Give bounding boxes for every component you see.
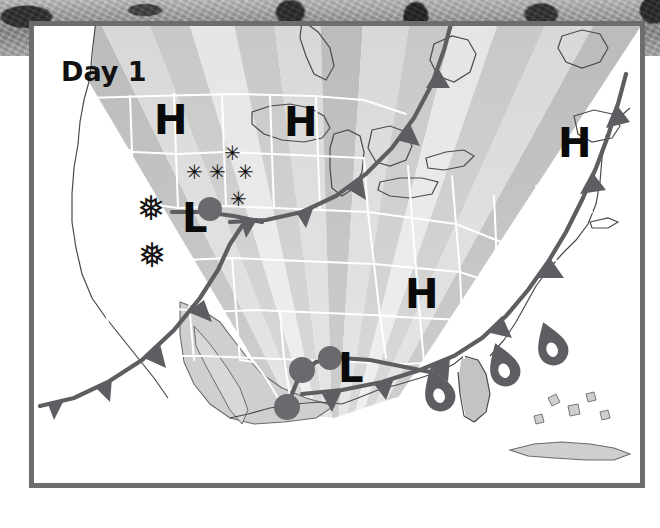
snow-star-5: ✳	[230, 189, 247, 209]
snow-star-4: ✳	[237, 162, 254, 182]
high-pressure-northwest: H	[154, 100, 186, 140]
snow-star-2: ✳	[186, 162, 203, 182]
weather-map-screenshot: Day 1 H H H H L L ✳ ✳ ✳ ✳ ✳ ❅ ❅	[0, 0, 660, 528]
snow-star-3: ✳	[209, 162, 226, 182]
high-pressure-northeast: H	[558, 123, 590, 163]
warm-front-bump	[289, 357, 315, 383]
day-label: Day 1	[61, 56, 147, 87]
map-frame: Day 1 H H H H L L ✳ ✳ ✳ ✳ ✳ ❅ ❅	[29, 21, 645, 488]
snowflake-1: ❅	[137, 191, 166, 225]
snowflake-2: ❅	[138, 238, 167, 272]
high-pressure-southeast: H	[405, 274, 437, 314]
low-pressure-texas: L	[338, 348, 363, 388]
weather-map-svg	[34, 26, 640, 483]
low-pressure-northern-rockies: L	[182, 198, 207, 238]
map-canvas: Day 1 H H H H L L ✳ ✳ ✳ ✳ ✳ ❅ ❅	[34, 26, 640, 483]
high-pressure-north-central: H	[284, 102, 316, 142]
warm-front-bump	[274, 394, 300, 420]
